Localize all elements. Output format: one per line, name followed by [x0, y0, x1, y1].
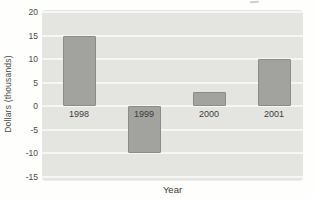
- gridline-y-20: [42, 11, 303, 13]
- y-tick-label-0: 0: [8, 101, 38, 111]
- bar-chart-figure: Dollars (thousands) 1998199920002001 Yea…: [0, 0, 314, 198]
- y-tick-label-10: 10: [8, 54, 38, 64]
- bar-2000: [193, 92, 226, 106]
- y-tick-label--10: -10: [8, 148, 38, 158]
- x-axis-title: Year: [42, 184, 303, 195]
- y-axis-title: Dollars (thousands): [1, 24, 15, 164]
- y-tick-label--5: -5: [8, 125, 38, 135]
- x-tick-label-2001: 2001: [252, 109, 296, 119]
- plot-area: 1998199920002001: [42, 10, 303, 180]
- y-tick-label-20: 20: [8, 7, 38, 17]
- gridline-y--15: [42, 176, 303, 178]
- cropped-text-fragment: [250, 1, 259, 4]
- y-tick-label-5: 5: [8, 78, 38, 88]
- bar-1998: [63, 36, 96, 107]
- bar-2001: [258, 59, 291, 106]
- gridline-y--10: [42, 152, 303, 154]
- gridline-y--5: [42, 129, 303, 131]
- y-tick-label--15: -15: [8, 172, 38, 182]
- x-tick-label-1999: 1999: [122, 109, 166, 119]
- y-tick-label-15: 15: [8, 31, 38, 41]
- x-tick-label-1998: 1998: [57, 109, 101, 119]
- x-tick-label-2000: 2000: [187, 109, 231, 119]
